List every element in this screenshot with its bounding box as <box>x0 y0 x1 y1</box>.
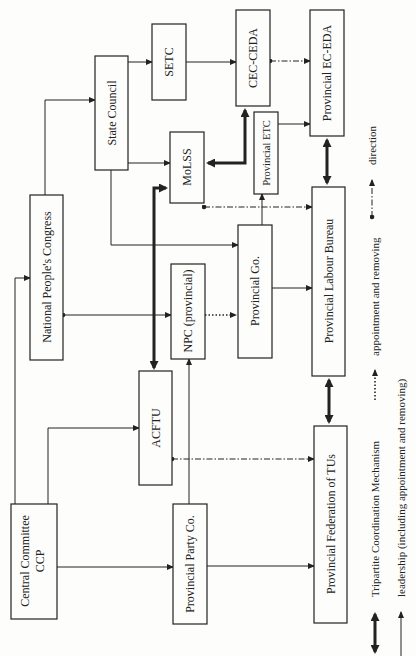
node-label: Provincial EC-EDA <box>320 25 334 122</box>
node-label: Provincial ETC <box>261 120 272 186</box>
node-npc-provincial: NPC (provincial) <box>171 264 205 359</box>
node-label: CEC-CEDA <box>246 28 260 88</box>
node-label: ACFTU <box>149 408 163 448</box>
node-label: NPC (provincial) <box>181 270 195 353</box>
node-molss: MoLSS <box>170 132 204 203</box>
node-central-committee-ccp: Central Committee CCP <box>11 504 57 619</box>
legend-tripartite-label: Tripartite Coordination Mechanism <box>369 441 381 597</box>
node-acftu: ACFTU <box>139 371 172 485</box>
node-provincial-etc: Provincial ETC <box>254 112 278 194</box>
legend-direction-label: direction <box>366 125 378 165</box>
node-label: Provincial Labour Bureau <box>322 219 336 344</box>
node-label: SETC <box>162 47 176 76</box>
edge-npc-statecouncil <box>45 100 95 195</box>
node-provincial-party-co: Provincial Party Co. <box>173 504 207 624</box>
node-provincial-go: Provincial Go. <box>238 225 272 358</box>
node-label: Provincial Go. <box>248 256 262 326</box>
node-provincial-federation-tus: Provincial Federation of TUs <box>314 426 347 623</box>
edge-ccp-acftu <box>48 428 139 504</box>
node-label: State Council <box>105 80 119 146</box>
node-setc: SETC <box>152 24 186 100</box>
node-label-line2: CCP <box>33 549 47 572</box>
node-state-council: State Council <box>95 56 128 170</box>
node-cec-ceda: CEC-CEDA <box>236 10 270 106</box>
node-label-line1: Central Committee <box>18 515 32 607</box>
node-provincial-labour-bureau: Provincial Labour Bureau <box>312 187 345 376</box>
edge-tripartite-acftu-molss <box>154 188 166 368</box>
legend-leadership-label: leadership (including appointment and re… <box>395 379 408 597</box>
organization-diagram: State Council SETC CEC-CEDA MoLSS Provin… <box>0 0 416 656</box>
legend-appointment-label: appointment and removing <box>369 237 381 356</box>
node-label: National People's Congress <box>40 211 54 343</box>
node-national-peoples-congress: National People's Congress <box>30 195 63 360</box>
node-label: Provincial Party Co. <box>183 515 197 613</box>
node-label: MoLSS <box>180 148 194 185</box>
node-label: Provincial Federation of TUs <box>324 454 338 594</box>
edge-ccp-npc <box>15 278 30 504</box>
edge-tripartite-molss-cecceda <box>208 110 245 163</box>
node-provincial-ec-eda: Provincial EC-EDA <box>310 10 344 136</box>
legend: Tripartite Coordination Mechanism leader… <box>366 125 408 656</box>
